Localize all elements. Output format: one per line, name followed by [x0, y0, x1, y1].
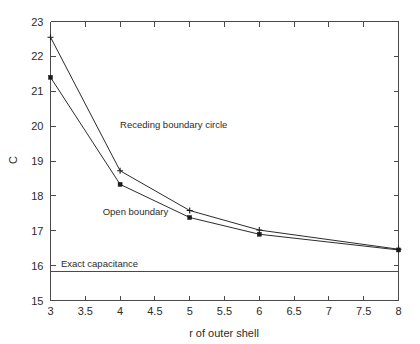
y-tick-label: 23	[31, 16, 43, 28]
x-tick-label: 3	[47, 305, 53, 317]
y-tick-label: 19	[31, 155, 43, 167]
x-tick-label: 6.5	[286, 305, 301, 317]
tick-labels: 15161718192021222333.544.555.566.577.58	[31, 16, 401, 317]
y-tick-label: 15	[31, 295, 43, 307]
y-tick-label: 18	[31, 190, 43, 202]
annotation-label: Open boundary	[103, 206, 169, 217]
x-tick-label: 8	[395, 305, 401, 317]
annotation-label: Exact capacitance	[61, 258, 138, 269]
x-tick-label: 4.5	[147, 305, 162, 317]
data-marker	[188, 215, 192, 219]
x-tick-label: 5.5	[217, 305, 232, 317]
annotation-label: Receding boundary circle	[120, 119, 227, 130]
y-tick-label: 22	[31, 50, 43, 62]
capacitance-line-chart: 15161718192021222333.544.555.566.577.58 …	[0, 0, 420, 344]
series-line	[51, 77, 399, 250]
x-axis-title: r of outer shell	[189, 327, 259, 339]
y-tick-label: 16	[31, 260, 43, 272]
x-tick-label: 7.5	[356, 305, 371, 317]
data-marker	[118, 182, 122, 186]
x-tick-label: 4	[117, 305, 123, 317]
y-tick-label: 20	[31, 120, 43, 132]
data-marker	[48, 34, 54, 40]
x-tick-label: 5	[187, 305, 193, 317]
x-tick-label: 6	[256, 305, 262, 317]
data-markers	[48, 34, 402, 252]
data-marker	[187, 208, 193, 214]
chart-annotations: Receding boundary circleOpen boundaryExa…	[61, 119, 227, 270]
data-marker	[397, 248, 401, 252]
chart-page: 15161718192021222333.544.555.566.577.58 …	[0, 0, 420, 344]
series-line	[51, 37, 399, 249]
y-axis-title: C	[7, 156, 19, 164]
data-marker	[117, 168, 123, 174]
y-tick-label: 21	[31, 85, 43, 97]
x-tick-label: 7	[326, 305, 332, 317]
data-marker	[257, 232, 261, 236]
data-marker	[49, 75, 53, 79]
y-tick-label: 17	[31, 225, 43, 237]
data-series	[51, 37, 399, 250]
x-tick-label: 3.5	[78, 305, 93, 317]
